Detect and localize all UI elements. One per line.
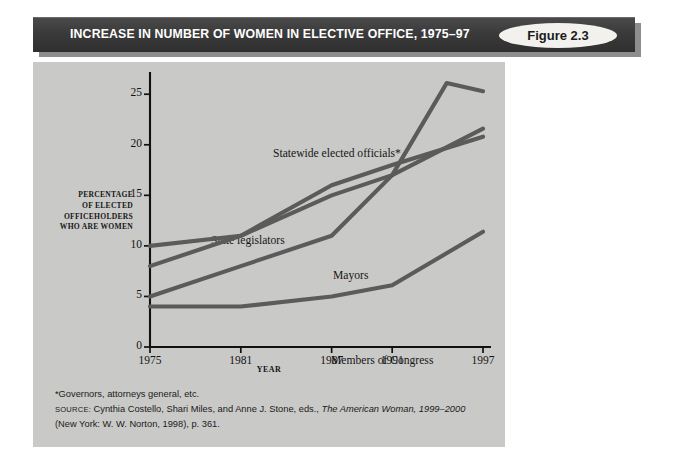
footnote-governors: *Governors, attorneys general, etc. [55,387,495,402]
figure-number-label: Figure 2.3 [527,28,588,43]
series-line-state-legislators [150,129,483,267]
source-line-2: (New York: W. W. Norton, 1998), p. 361. [55,417,495,432]
source-kicker: SOURCE: [55,405,91,414]
banner-bar: INCREASE IN NUMBER OF WOMEN IN ELECTIVE … [33,17,635,52]
source-authors: Cynthia Costello, Shari Miles, and Anne … [91,404,321,414]
series-line-statewide-elected-officials [150,83,483,296]
page-title: INCREASE IN NUMBER OF WOMEN IN ELECTIVE … [70,27,470,41]
line-chart: PERCENTAGEOF ELECTEDOFFICEHOLDERSWHO ARE… [33,62,505,382]
figure-header-banner: INCREASE IN NUMBER OF WOMEN IN ELECTIVE … [33,17,641,57]
source-line-1: SOURCE: Cynthia Costello, Shari Miles, a… [55,402,495,417]
figure-panel: PERCENTAGEOF ELECTEDOFFICEHOLDERSWHO ARE… [33,62,505,447]
x-axis-title: YEAR [33,365,505,374]
figure-notes: *Governors, attorneys general, etc. SOUR… [55,387,495,432]
chart-canvas [33,62,505,382]
figure-number-badge: Figure 2.3 [499,23,617,48]
source-title: The American Woman, 1999–2000 [321,404,465,414]
